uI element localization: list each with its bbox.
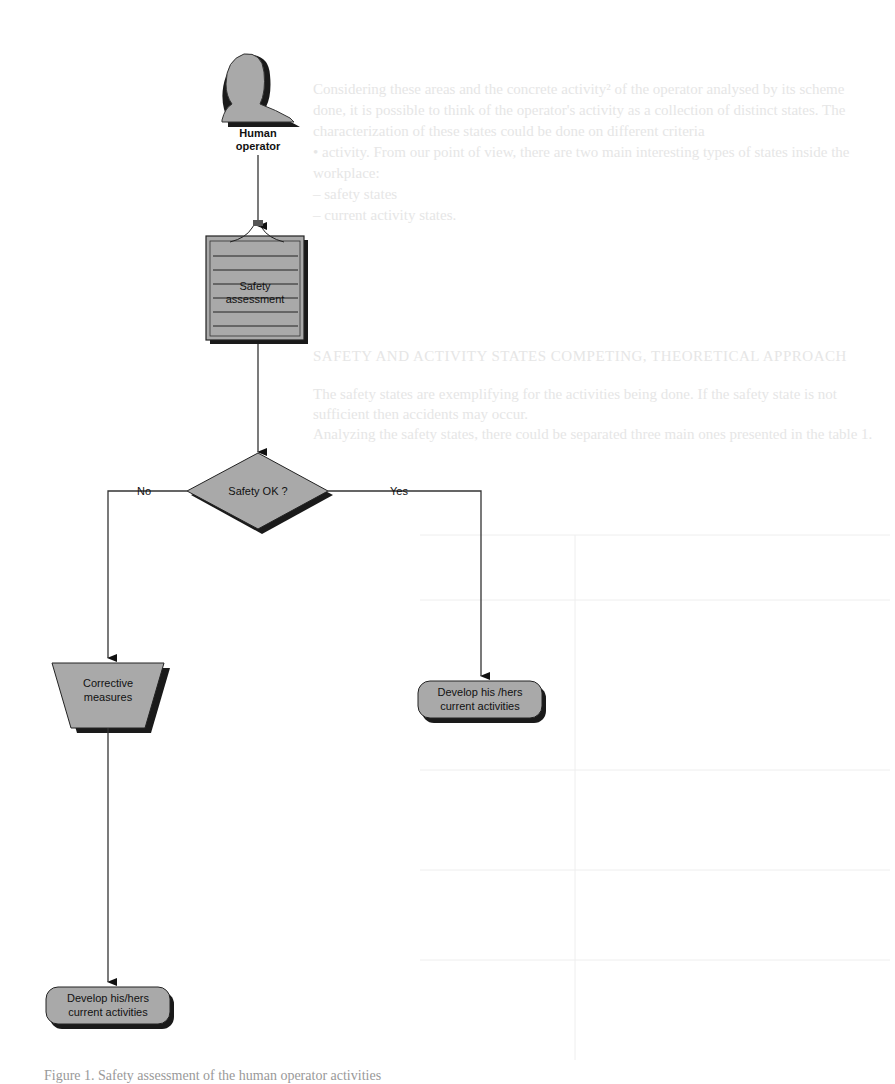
flowchart: Human operator Safety assessment Safety … xyxy=(0,0,895,1084)
operator-label-line2: operator xyxy=(236,140,281,152)
edge-yes-branch xyxy=(328,491,481,676)
corrective-label-line2: measures xyxy=(84,691,133,703)
develop-no-label-line1: Develop his/hers xyxy=(67,992,149,1004)
yes-label: Yes xyxy=(390,485,408,497)
edge-no-branch xyxy=(108,491,187,658)
no-label: No xyxy=(137,485,151,497)
develop-no-label-line2: current activities xyxy=(68,1006,148,1018)
develop-yes-label-line2: current activities xyxy=(440,700,520,712)
assessment-label-line2: assessment xyxy=(226,293,285,305)
operator-label-line1: Human xyxy=(239,127,277,139)
corrective-label-line1: Corrective xyxy=(83,677,133,689)
human-operator-icon xyxy=(222,54,300,127)
develop-yes-label-line1: Develop his /hers xyxy=(438,686,523,698)
assessment-label-line1: Safety xyxy=(239,280,271,292)
decision-label: Safety OK ? xyxy=(228,485,287,497)
figure-caption: Figure 1. Safety assessment of the human… xyxy=(44,1068,381,1084)
